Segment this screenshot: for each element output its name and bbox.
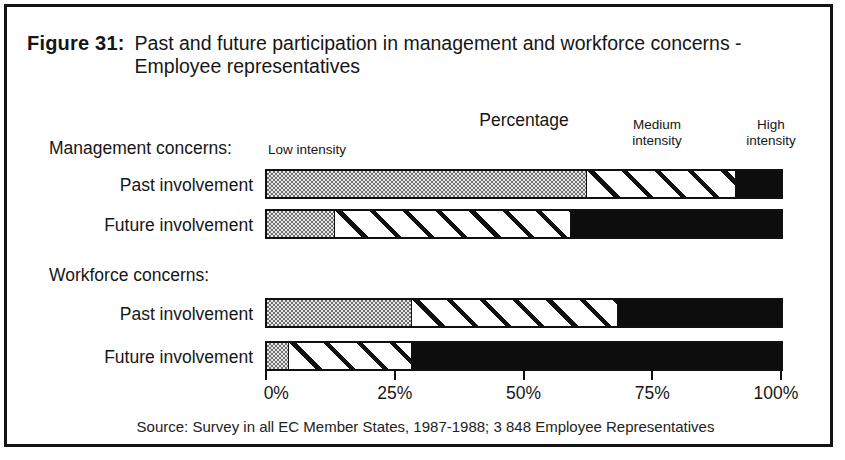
axis-tick-75 — [651, 371, 653, 380]
bar-segment-high — [570, 211, 781, 237]
axis-tick-label-50: 50% — [489, 383, 559, 404]
bar-segment-medium — [411, 300, 617, 326]
row-label-management-future: Future involvement — [27, 215, 253, 236]
axis-tick-50 — [523, 371, 525, 380]
stacked-bar-management-past — [265, 169, 783, 199]
figure-title: Figure 31: Past and future participation… — [27, 32, 742, 78]
figure-page: Figure 31: Past and future participation… — [0, 0, 845, 460]
figure-title-text: Past and future participation in managem… — [135, 32, 742, 78]
bar-segment-low — [267, 343, 288, 369]
title-line-2: Employee representatives — [135, 55, 742, 78]
bar-segment-low — [267, 171, 586, 197]
bar-segment-low — [267, 211, 334, 237]
legend-label-medium: Medium intensity — [617, 117, 697, 148]
axis-tick-25 — [394, 371, 396, 380]
bar-segment-high — [735, 171, 781, 197]
stacked-bar-workforce-past — [265, 298, 783, 328]
bar-segment-high — [411, 343, 781, 369]
x-axis: 0% 25% 50% 75% 100% — [266, 371, 781, 411]
axis-tick-label-100: 100% — [741, 383, 811, 404]
axis-tick-label-75: 75% — [617, 383, 687, 404]
chart-title: Percentage — [424, 110, 624, 131]
figure-number: Figure 31: — [27, 32, 125, 55]
source-note: Source: Survey in all EC Member States, … — [11, 418, 840, 435]
bar-segment-medium — [334, 211, 570, 237]
bar-segment-medium — [288, 343, 411, 369]
row-label-management-past: Past involvement — [27, 175, 253, 196]
row-label-workforce-past: Past involvement — [27, 304, 253, 325]
legend-label-low: Low intensity — [268, 142, 346, 157]
stacked-bar-workforce-future — [265, 341, 783, 371]
bar-segment-low — [267, 300, 411, 326]
legend-label-high: High intensity — [731, 117, 811, 148]
bar-segment-medium — [586, 171, 735, 197]
axis-tick-100 — [780, 371, 782, 380]
axis-tick-0 — [265, 371, 267, 380]
axis-tick-label-0: 0% — [241, 383, 311, 404]
title-line-1: Past and future participation in managem… — [135, 32, 742, 55]
group-label-workforce: Workforce concerns: — [49, 265, 209, 286]
group-label-management: Management concerns: — [49, 138, 232, 159]
row-label-workforce-future: Future involvement — [27, 347, 253, 368]
figure-frame: Figure 31: Past and future participation… — [4, 4, 833, 447]
stacked-bar-management-future — [265, 209, 783, 239]
axis-tick-label-25: 25% — [360, 383, 430, 404]
bar-segment-high — [617, 300, 781, 326]
